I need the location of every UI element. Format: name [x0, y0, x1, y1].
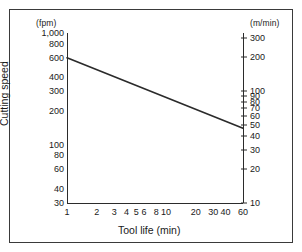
y-tick-left: 40 — [54, 184, 64, 194]
right-axis-line — [243, 33, 244, 203]
y-tick-left: 800 — [49, 39, 64, 49]
y-tick-right-mark — [241, 203, 247, 204]
y-tick-right: 40 — [250, 131, 260, 141]
y-tick-left: 80 — [54, 150, 64, 160]
y-tick-right-mark — [241, 37, 247, 38]
y-tick-left: 400 — [49, 72, 64, 82]
x-tick: 6 — [142, 207, 147, 217]
x-tick: 4 — [124, 207, 129, 217]
y-tick-right-mark — [241, 101, 247, 102]
x-tick: 10 — [161, 207, 171, 217]
y-tick-right: 10 — [250, 198, 260, 208]
y-tick-left: 1,000 — [41, 28, 64, 38]
y-tick-right-mark — [241, 169, 247, 170]
x-tick: 3 — [112, 207, 117, 217]
x-axis-title: Tool life (min) — [118, 224, 180, 236]
y-tick-right: 30 — [250, 145, 260, 155]
y-tick-right: 50 — [250, 120, 260, 130]
y-tick-left: 60 — [54, 164, 64, 174]
y-tick-right: 300 — [250, 33, 265, 43]
y-tick-right-mark — [241, 91, 247, 92]
y-tick-right: 200 — [250, 52, 265, 62]
data-line-layer — [67, 33, 243, 203]
y-tick-left: 30 — [54, 198, 64, 208]
y-tick-left: 300 — [49, 86, 64, 96]
x-tick: 1 — [64, 207, 69, 217]
y-tick-left: 200 — [49, 106, 64, 116]
x-tick: 40 — [221, 207, 231, 217]
left-axis-unit-caption: (fpm) — [36, 18, 56, 28]
y-tick-right: 20 — [250, 164, 260, 174]
y-tick-right-mark — [241, 124, 247, 125]
y-tick-right-mark — [241, 57, 247, 58]
tool-life-chart-figure: (fpm) (m/min) Cutting speed Tool life (m… — [0, 0, 302, 252]
y-axis-title: Cutting speed — [0, 61, 10, 126]
tool-life-curve — [67, 58, 243, 129]
x-tick: 30 — [208, 207, 218, 217]
y-tick-right-mark — [241, 115, 247, 116]
x-tick: 8 — [154, 207, 159, 217]
x-tick: 60 — [238, 207, 248, 217]
y-tick-right-mark — [241, 135, 247, 136]
right-axis-unit-caption: (m/min) — [250, 18, 280, 28]
y-tick-left: 100 — [49, 140, 64, 150]
plot-area: 1,00080060040030020010080604030300200100… — [67, 33, 243, 203]
x-tick: 20 — [191, 207, 201, 217]
y-tick-right-mark — [241, 96, 247, 97]
bottom-axis-line — [67, 203, 243, 204]
x-tick: 2 — [94, 207, 99, 217]
y-tick-right-mark — [241, 108, 247, 109]
y-tick-left: 600 — [49, 53, 64, 63]
x-tick: 5 — [134, 207, 139, 217]
y-tick-right-mark — [241, 149, 247, 150]
